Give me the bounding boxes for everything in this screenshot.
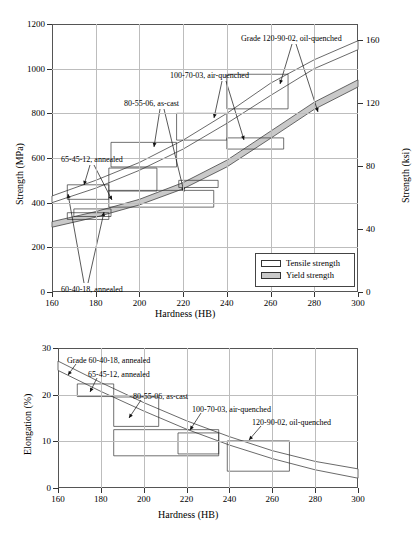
y-tick-label: 600	[10, 154, 45, 163]
y-tick	[47, 69, 52, 70]
y-tick	[53, 395, 58, 396]
y-tick	[47, 292, 52, 293]
y2-tick-label: 40	[366, 225, 396, 234]
y-tick-label: 200	[10, 243, 45, 252]
elongation-band-layer	[0, 330, 415, 537]
x-tick-label: 280	[299, 495, 331, 504]
y2-tick-label: 160	[366, 36, 396, 45]
callout-leader	[154, 109, 160, 147]
gridline-vertical	[229, 348, 230, 488]
x-tick	[227, 292, 228, 297]
y2-tick-label: 80	[366, 162, 396, 171]
y2-tick-label: 120	[366, 99, 396, 108]
gridline-horizontal	[58, 441, 358, 442]
y-tick-label: 1000	[10, 65, 45, 74]
x-tick	[139, 292, 140, 297]
legend-row-yield: Yield strength	[261, 269, 349, 281]
annotation-60-40-18-bottom: Grade 60-40-18, annealed	[67, 356, 150, 365]
x-tick	[272, 488, 273, 493]
y-tick-label: 10	[16, 437, 51, 446]
yield-swatch-icon	[261, 272, 281, 279]
x-tick-label: 260	[255, 299, 287, 308]
x-tick	[58, 488, 59, 493]
x-tick	[314, 292, 315, 297]
y-tick	[53, 348, 58, 349]
x-tick	[187, 488, 188, 493]
x-tick-label: 160	[42, 495, 74, 504]
y-tick-label: 1200	[10, 20, 45, 29]
x-tick-label: 300	[342, 299, 374, 308]
y-tick-label: 0	[10, 288, 45, 297]
x-tick-label: 220	[167, 299, 199, 308]
y-tick-label: 800	[10, 109, 45, 118]
legend-strength: Tensile strength Yield strength	[255, 253, 355, 287]
y2-tick	[358, 166, 363, 167]
x-tick	[101, 488, 102, 493]
x-tick-label: 300	[342, 495, 374, 504]
legend-label-yield: Yield strength	[286, 271, 334, 280]
y-tick	[47, 158, 52, 159]
gridline-horizontal	[52, 113, 358, 114]
x-tick-label: 280	[298, 299, 330, 308]
gridline-vertical	[144, 348, 145, 488]
y-tick	[53, 441, 58, 442]
x-axis-title-hardness: Hardness (HB)	[155, 308, 215, 319]
annotation-100-70-03-bottom: 100-70-03, air-quenched	[192, 405, 271, 414]
x-axis-title-hardness-bottom: Hardness (HB)	[158, 509, 218, 520]
gridline-horizontal	[58, 395, 358, 396]
y-tick	[47, 203, 52, 204]
y2-tick-label: 0	[366, 288, 396, 297]
gridline-vertical	[101, 348, 102, 488]
y2-tick	[358, 40, 363, 41]
y2-axis-title-strength-ksi: Strength (ksi)	[400, 148, 411, 203]
y-tick	[47, 113, 52, 114]
legend-label-tensile: Tensile strength	[286, 259, 340, 268]
x-tick-label: 180	[80, 299, 112, 308]
gridline-horizontal	[52, 69, 358, 70]
y2-tick	[358, 229, 363, 230]
y2-tick	[358, 292, 363, 293]
tensile-swatch-icon	[261, 260, 281, 267]
y-tick	[53, 488, 58, 489]
y-tick-label: 30	[16, 344, 51, 353]
x-tick	[229, 488, 230, 493]
x-tick	[315, 488, 316, 493]
y-axis-title-strength-mpa: Strength (MPa)	[14, 143, 25, 205]
y2-tick	[358, 103, 363, 104]
callout-arrowhead	[153, 143, 157, 147]
gridline-horizontal	[52, 247, 358, 248]
y-tick-label: 20	[16, 391, 51, 400]
y-tick	[47, 24, 52, 25]
x-tick	[144, 488, 145, 493]
x-tick-label: 220	[171, 495, 203, 504]
x-tick-label: 200	[123, 299, 155, 308]
annotation-100-70-03-top: 100-70-03, air-quenched	[170, 71, 249, 80]
x-tick-label: 240	[213, 495, 245, 504]
figure-root: Strength (MPa) Strength (ksi) Hardness (…	[0, 0, 415, 537]
callout-arrowhead	[213, 114, 217, 118]
annotation-65-45-12-top: 65-45-12, annealed	[61, 155, 123, 164]
gridline-horizontal	[52, 203, 358, 204]
callout-leader	[68, 194, 84, 283]
strength-band	[52, 41, 358, 203]
x-tick	[271, 292, 272, 297]
y-tick-label: 400	[10, 199, 45, 208]
x-tick-label: 160	[36, 299, 68, 308]
strength-band	[52, 80, 358, 227]
gridline-vertical	[187, 348, 188, 488]
x-tick-label: 240	[211, 299, 243, 308]
annotation-120-90-02-top: Grade 120-90-02, oil-quenched	[241, 34, 342, 43]
legend-row-tensile: Tensile strength	[261, 257, 349, 269]
annotation-80-55-06-top: 80-55-06, as-cast	[124, 99, 179, 108]
annotation-65-45-12-bottom: 65-45-12, annealed	[88, 370, 150, 379]
annotation-60-40-18-top: 60-40-18, annealed	[61, 285, 123, 294]
x-tick	[183, 292, 184, 297]
x-tick-label: 180	[85, 495, 117, 504]
y-tick	[47, 247, 52, 248]
chart-strength-vs-hardness: Strength (MPa) Strength (ksi) Hardness (…	[0, 0, 415, 320]
x-tick	[52, 292, 53, 297]
annotation-80-55-06-bottom: 80-55-06, as-cast	[133, 392, 188, 401]
x-tick-label: 200	[128, 495, 160, 504]
annotation-120-90-02-bottom: 120-90-02, oil-quenched	[252, 418, 331, 427]
x-tick-label: 260	[256, 495, 288, 504]
